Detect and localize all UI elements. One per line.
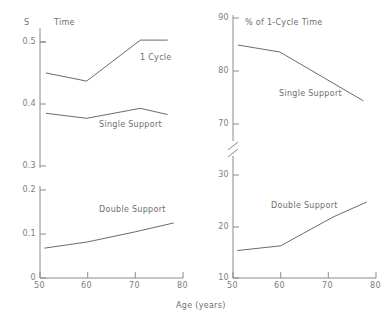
- bottom-right-yticklabel-20: 20: [203, 222, 229, 231]
- figure-gait-timing-vs-age: S Time 0.5 0.4 0.3 1 Cycle Single Suppor…: [0, 0, 386, 332]
- top-left-yticklabel-0.3: 0.3: [8, 161, 36, 170]
- axis-break-slash-lower: [228, 149, 238, 157]
- bottom-left-xticklabel-60: 60: [81, 281, 92, 290]
- bottom-right-yticklabel-10: 10: [203, 273, 229, 282]
- curve-top-left-single-support: [46, 108, 167, 118]
- bottom-left-yticklabel-0: 0: [8, 273, 36, 282]
- bottom-left-xticklabel-70: 70: [129, 281, 140, 290]
- series-label-top-right-single-support: Single Support: [279, 89, 342, 98]
- bottom-left-xticklabel-80: 80: [177, 281, 188, 290]
- top-right-yticklabel-70: 70: [203, 119, 229, 128]
- top-right-yticklabel-90: 90: [203, 13, 229, 22]
- panel-top-left: [40, 28, 167, 168]
- panel-bottom-right: [233, 156, 376, 278]
- bottom-right-yticklabel-30: 30: [203, 170, 229, 179]
- panel-bottom-left: [40, 186, 183, 278]
- top-left-yticklabel-0.5: 0.5: [8, 37, 36, 46]
- axis-break-slash-upper: [228, 142, 238, 150]
- top-left-yticklabel-0.4: 0.4: [8, 99, 36, 108]
- bottom-left-yticklabel-0.2: 0.2: [8, 185, 36, 194]
- bottom-right-xticklabel-80: 80: [370, 281, 381, 290]
- top-left-panel-title: Time: [54, 18, 75, 27]
- axis-break-marks: [228, 142, 238, 157]
- bottom-right-axes: [233, 156, 376, 278]
- top-right-panel-title: % of 1-Cycle Time: [245, 18, 322, 27]
- bottom-right-xticklabel-70: 70: [322, 281, 333, 290]
- bottom-left-xticklabel-50: 50: [34, 281, 45, 290]
- bottom-right-xticklabel-60: 60: [274, 281, 285, 290]
- top-right-yticklabel-80: 80: [203, 66, 229, 75]
- bottom-right-xticklabel-50: 50: [227, 281, 238, 290]
- curve-bottom-left-double-support: [45, 223, 174, 248]
- bottom-left-yticklabel-0.1: 0.1: [8, 229, 36, 238]
- series-label-bottom-right-double-support: Double Support: [271, 201, 338, 210]
- series-label-1-cycle: 1 Cycle: [140, 53, 172, 62]
- top-left-unit-symbol: S: [24, 18, 29, 27]
- series-label-bottom-left-double-support: Double Support: [99, 205, 166, 214]
- bottom-left-axes: [40, 186, 183, 278]
- panel-top-right: [233, 15, 363, 141]
- x-axis-title: Age (years): [176, 301, 226, 310]
- series-label-top-left-single-support: Single Support: [99, 120, 162, 129]
